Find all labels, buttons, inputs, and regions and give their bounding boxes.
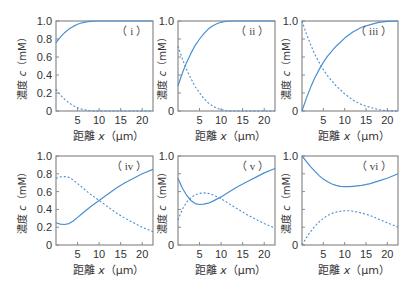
x-tick-label: 15 (360, 114, 372, 126)
panel-label: （ v ） (236, 160, 269, 172)
y-axis-label: 濃度 c（mM） (280, 32, 292, 99)
x-axis-label: 距離 x（μm） (73, 129, 145, 143)
y-axis-label: 濃度 c（mM） (156, 167, 168, 234)
x-tick-label: 5 (74, 114, 80, 126)
y-axis-label: 濃度 c（mM） (16, 167, 28, 234)
y-tick-label: 1.0 (283, 15, 298, 27)
solid-series-line (56, 169, 153, 224)
y-tick-label: 0 (46, 105, 52, 117)
x-axis-label: 距離 x（μm） (318, 129, 390, 143)
y-tick-label: 0.2 (37, 221, 52, 233)
dashed-series-line (302, 211, 398, 245)
x-tick-label: 15 (360, 248, 372, 260)
x-tick-label: 10 (93, 114, 105, 126)
y-tick-label: 0 (292, 239, 298, 251)
panel-label: （ vi ） (356, 160, 392, 172)
dashed-series-line (56, 177, 153, 232)
y-tick-label: 0.4 (37, 69, 52, 81)
x-tick-label: 20 (136, 114, 148, 126)
panel-label: （ iv ） (111, 160, 147, 172)
x-axis-label: 距離 x（μm） (195, 263, 267, 277)
chart-panel-3: 01.05101520（ iii ）距離 x（μm）濃度 c（mM） (280, 15, 398, 143)
x-tick-label: 15 (115, 248, 127, 260)
y-axis-label: 濃度 c（mM） (156, 32, 168, 99)
dashed-series-line (178, 46, 275, 111)
y-tick-label: 0.6 (37, 51, 52, 63)
y-tick-label: 1.0 (159, 150, 174, 162)
x-tick-label: 20 (381, 114, 393, 126)
x-tick-label: 15 (115, 114, 127, 126)
x-tick-label: 10 (93, 248, 105, 260)
chart-panel-5: 01.05101520（ v ）距離 x（μm）濃度 c（mM） (156, 150, 275, 277)
x-tick-label: 10 (215, 114, 227, 126)
x-tick-label: 5 (196, 114, 202, 126)
x-axis-label: 距離 x（μm） (318, 263, 390, 277)
y-axis-label: 濃度 c（mM） (280, 167, 292, 234)
x-tick-label: 15 (237, 248, 249, 260)
y-tick-label: 0 (168, 239, 174, 251)
x-axis-label: 距離 x（μm） (195, 129, 267, 143)
x-tick-label: 15 (237, 114, 249, 126)
x-tick-label: 20 (258, 114, 270, 126)
chart-panel-1: 00.20.40.60.81.05101520（ i ）距離 x（μm）濃度 c… (16, 15, 153, 143)
y-axis-label: 濃度 c（mM） (16, 32, 28, 99)
x-tick-label: 5 (74, 248, 80, 260)
chart-panel-2: 01.05101520（ ii ）距離 x（μm）濃度 c（mM） (156, 15, 275, 143)
x-axis-label: 距離 x（μm） (73, 263, 145, 277)
chart-panel-6: 01.05101520（ vi ）距離 x（μm）濃度 c（mM） (280, 150, 398, 277)
y-tick-label: 0 (168, 105, 174, 117)
y-tick-label: 0 (46, 239, 52, 251)
x-tick-label: 10 (339, 114, 351, 126)
x-tick-label: 5 (196, 248, 202, 260)
y-tick-label: 0.8 (37, 33, 52, 45)
x-tick-label: 20 (136, 248, 148, 260)
y-tick-label: 0 (292, 105, 298, 117)
y-tick-label: 1.0 (37, 150, 52, 162)
panel-label: （ ii ） (235, 25, 269, 37)
y-tick-label: 0.8 (37, 168, 52, 180)
figure: 00.20.40.60.81.05101520（ i ）距離 x（μm）濃度 c… (0, 0, 418, 284)
y-tick-label: 0.4 (37, 203, 52, 215)
y-tick-label: 1.0 (283, 150, 298, 162)
solid-series-line (178, 169, 275, 205)
x-tick-label: 5 (320, 248, 326, 260)
y-tick-label: 0.2 (37, 87, 52, 99)
dashed-series-line (56, 89, 153, 111)
x-tick-label: 20 (258, 248, 270, 260)
x-tick-label: 5 (320, 114, 326, 126)
y-tick-label: 1.0 (159, 15, 174, 27)
panel-label: （ iii ） (355, 25, 392, 37)
panel-label: （ i ） (116, 25, 147, 37)
dashed-series-line (178, 193, 275, 228)
y-tick-label: 0.6 (37, 186, 52, 198)
x-tick-label: 20 (381, 248, 393, 260)
x-tick-label: 10 (339, 248, 351, 260)
x-tick-label: 10 (215, 248, 227, 260)
y-tick-label: 1.0 (37, 15, 52, 27)
chart-panel-4: 00.20.40.60.81.05101520（ iv ）距離 x（μm）濃度 … (16, 150, 153, 277)
